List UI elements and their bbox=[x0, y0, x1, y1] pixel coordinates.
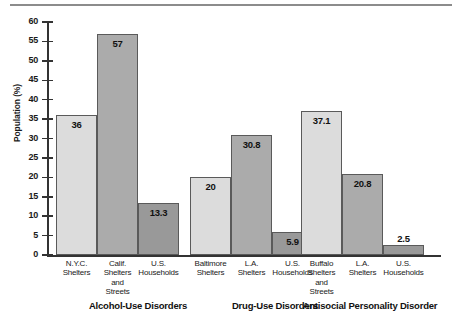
y-tick-label-30: 30 bbox=[12, 133, 38, 143]
y-tick-label-35: 35 bbox=[12, 113, 38, 123]
category-label: U.S.Households bbox=[132, 259, 185, 278]
y-tick-15 bbox=[42, 196, 53, 198]
bar: 20.8 bbox=[342, 174, 383, 255]
bar: 2.5 bbox=[383, 245, 424, 255]
y-tick-label-40: 40 bbox=[12, 94, 38, 104]
bar-value-label: 2.5 bbox=[384, 233, 423, 244]
x-axis-line bbox=[47, 255, 441, 257]
bar-value-label: 13.3 bbox=[139, 207, 178, 218]
y-tick-55 bbox=[42, 41, 53, 43]
top-divider-rule bbox=[10, 4, 452, 6]
y-tick-label-50: 50 bbox=[12, 55, 38, 65]
bar: 13.3 bbox=[138, 203, 179, 255]
bar: 20 bbox=[190, 177, 231, 255]
y-tick-label-55: 55 bbox=[12, 35, 38, 45]
bar-value-label: 57 bbox=[98, 38, 137, 49]
bar-value-label: 20 bbox=[191, 181, 230, 192]
bar-chart-figure: Population (%) 605550454035302520151050 … bbox=[0, 0, 459, 323]
y-tick-30 bbox=[42, 138, 53, 140]
y-tick-label-45: 45 bbox=[12, 74, 38, 84]
y-tick-label-10: 10 bbox=[12, 210, 38, 220]
bar: 57 bbox=[97, 34, 138, 255]
bar: 36 bbox=[56, 115, 97, 255]
y-tick-25 bbox=[42, 157, 53, 159]
y-tick-label-60: 60 bbox=[12, 16, 38, 26]
group-title-antisocial: Antisocial Personality Disorder bbox=[280, 300, 459, 311]
y-tick-0 bbox=[42, 254, 53, 256]
y-tick-label-20: 20 bbox=[12, 171, 38, 181]
bar-value-label: 30.8 bbox=[232, 139, 271, 150]
category-label: U.S.Households bbox=[377, 259, 430, 278]
y-tick-40 bbox=[42, 99, 53, 101]
bar-value-label: 20.8 bbox=[343, 178, 382, 189]
y-tick-label-0: 0 bbox=[12, 249, 38, 259]
y-tick-10 bbox=[42, 215, 53, 217]
y-tick-5 bbox=[42, 235, 53, 237]
y-tick-45 bbox=[42, 80, 53, 82]
y-tick-label-5: 5 bbox=[12, 230, 38, 240]
y-tick-50 bbox=[42, 60, 53, 62]
bar-value-label: 36 bbox=[57, 119, 96, 130]
bar-value-label: 37.1 bbox=[302, 115, 341, 126]
bar: 37.1 bbox=[301, 111, 342, 255]
y-tick-60 bbox=[42, 21, 53, 23]
y-tick-35 bbox=[42, 118, 53, 120]
y-tick-label-25: 25 bbox=[12, 152, 38, 162]
y-tick-label-15: 15 bbox=[12, 191, 38, 201]
y-tick-20 bbox=[42, 177, 53, 179]
bar: 30.8 bbox=[231, 135, 272, 255]
